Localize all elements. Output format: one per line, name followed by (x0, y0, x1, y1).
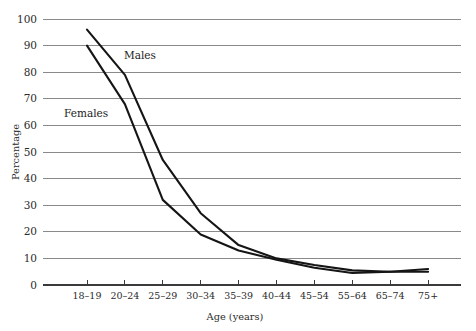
y-axis-tick-label: 50 (24, 146, 37, 158)
y-axis-tick-label: 0 (30, 279, 37, 291)
series-line-females (87, 46, 428, 273)
y-axis-tick-label: 10 (24, 252, 37, 264)
series-annotations-group: MalesFemales (64, 49, 156, 119)
x-axis-tick-label: 40–44 (262, 290, 291, 301)
y-axis-tick-label: 30 (24, 199, 37, 211)
y-axis-tick-label: 100 (17, 13, 37, 25)
y-axis-tick-label: 60 (24, 119, 37, 131)
y-axis-title: Percentage (10, 124, 21, 180)
data-series-group (87, 30, 428, 273)
chart-container: 0102030405060708090100 18–1920–2425–2930… (0, 0, 476, 331)
y-axis-tick-label: 90 (24, 39, 37, 51)
x-axis-title: Age (years) (206, 311, 264, 322)
x-axis-tick-label: 55–64 (338, 290, 367, 301)
x-axis-tick-label: 20–24 (110, 290, 139, 301)
x-axis-tick-label: 75+ (418, 290, 438, 301)
x-axis-tick-label: 30–34 (186, 290, 215, 301)
y-axis-tick-label: 20 (24, 225, 37, 237)
x-axis-line-group (43, 280, 461, 285)
line-chart: 0102030405060708090100 18–1920–2425–2930… (0, 0, 476, 331)
y-axis-tick-label: 40 (24, 172, 37, 184)
x-axis-tick-label: 65–74 (376, 290, 405, 301)
gridlines-group (43, 19, 461, 258)
series-label-females: Females (64, 107, 108, 119)
x-axis-tick-label: 25–29 (148, 290, 177, 301)
x-axis-tick-label: 35–39 (224, 290, 253, 301)
y-axis-tick-label: 80 (24, 66, 37, 78)
x-axis-tick-label: 45–54 (300, 290, 329, 301)
x-axis-tick-labels: 18–1920–2425–2930–3435–3940–4445–5455–64… (73, 290, 439, 301)
series-line-males (87, 30, 428, 272)
x-axis-tick-label: 18–19 (73, 290, 102, 301)
y-axis-tick-label: 70 (24, 92, 37, 104)
series-label-males: Males (124, 49, 156, 61)
